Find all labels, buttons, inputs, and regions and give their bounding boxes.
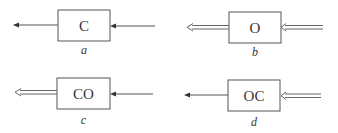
open-arrowhead-icon	[187, 24, 193, 32]
box-label-b: O	[229, 21, 281, 36]
caption-c: c	[57, 113, 110, 128]
caption-b: b	[229, 45, 281, 60]
open-arrowhead-icon	[15, 89, 21, 97]
arrowhead-icon	[110, 24, 116, 29]
caption-a: a	[58, 43, 110, 58]
open-arrowhead-icon	[281, 92, 286, 100]
box-label-a: C	[58, 19, 110, 34]
box-label-d: OC	[228, 89, 280, 104]
arrowhead-icon	[13, 23, 19, 28]
arrowhead-icon	[110, 92, 116, 97]
box-label-c: CO	[57, 87, 110, 102]
diagram-canvas	[0, 0, 338, 133]
caption-d: d	[228, 115, 280, 130]
open-arrowhead-icon	[281, 24, 286, 32]
arrowhead-icon	[184, 93, 190, 98]
